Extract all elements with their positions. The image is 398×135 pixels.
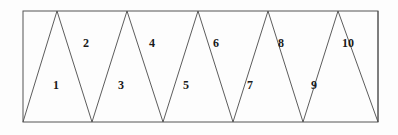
triangulation-drawing bbox=[0, 0, 398, 135]
triangle-label-4: 4 bbox=[149, 37, 155, 49]
triangle-label-8: 8 bbox=[278, 37, 284, 49]
triangle-label-5: 5 bbox=[183, 79, 189, 91]
triangle-label-9: 9 bbox=[311, 79, 317, 91]
triangle-label-1: 1 bbox=[53, 79, 59, 91]
triangulation-figure: 1 2 3 4 5 6 7 8 9 10 bbox=[0, 0, 398, 135]
triangle-label-10: 10 bbox=[342, 37, 354, 49]
triangle-label-7: 7 bbox=[247, 79, 253, 91]
triangle-label-2: 2 bbox=[83, 37, 89, 49]
triangle-label-3: 3 bbox=[118, 79, 124, 91]
triangle-label-6: 6 bbox=[213, 37, 219, 49]
